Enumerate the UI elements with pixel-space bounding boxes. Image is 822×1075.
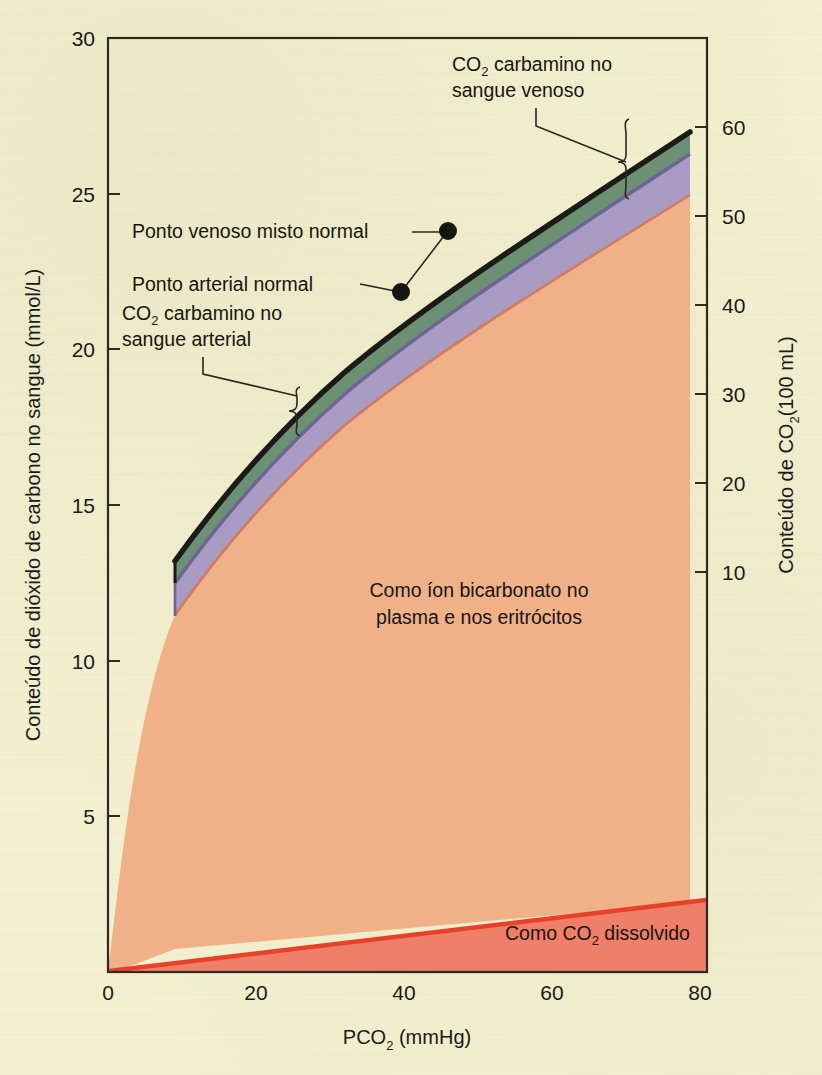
y-right-axis-title-sub: 2 [787,416,802,423]
annotation-carbamino-venoso-leader [536,108,626,162]
y-right-axis-title: Conteúdo de CO2(100 mL) [775,336,802,573]
annotation-dissolvido-prefix: Como CO [505,922,592,944]
y-right-label-10: 10 [722,561,745,584]
point-arterial-normal [392,283,410,301]
x-axis-title-sub: 2 [386,1038,393,1053]
point-venoso-misto-normal [439,222,457,240]
x-label-80: 80 [688,981,711,1004]
annotation-carbamino-arterial: CO2 carbamino no sangue arterial [122,302,300,436]
y-right-label-30: 30 [722,383,745,406]
x-label-0: 0 [102,981,114,1004]
x-axis-title-prefix: PCO [343,1026,386,1048]
y-right-label-60: 60 [722,116,745,139]
annotation-points-connector [401,232,447,292]
annotation-dissolvido-suffix: dissolvido [599,922,690,944]
annotation-carbamino-venoso-prefix: CO [452,53,481,75]
x-label-40: 40 [392,981,415,1004]
annotation-bicarbonato-line2: plasma e nos eritrócitos [376,606,582,628]
annotation-ponto-venoso: Ponto venoso misto normal [132,220,446,242]
annotation-carbamino-arterial-leader [203,357,297,396]
y-left-label-30: 30 [72,27,95,50]
annotation-carbamino-arterial-line2: sangue arterial [122,328,251,350]
annotation-carbamino-arterial-sub: 2 [151,313,158,328]
x-label-60: 60 [540,981,563,1004]
y-right-label-50: 50 [722,205,745,228]
y-left-label-10: 10 [72,650,95,673]
annotation-carbamino-venoso-line1: CO2 carbamino no [452,53,612,79]
y-left-label-15: 15 [72,494,95,517]
x-axis: 0 20 40 60 80 [102,981,712,1004]
annotation-ponto-arterial-label: Ponto arterial normal [132,273,313,295]
annotation-carbamino-venoso: CO2 carbamino no sangue venoso [452,53,629,199]
annotation-bicarbonato-line1: Como íon bicarbonato no [370,579,589,601]
annotation-carbamino-arterial-suffix: carbamino no [158,302,282,324]
x-axis-title: PCO2 (mmHg) [343,1026,471,1053]
figure-svg: 30 25 20 15 10 5 Conteúdo de dióxido de … [0,0,822,1075]
co2-dissociation-figure: 30 25 20 15 10 5 Conteúdo de dióxido de … [0,0,822,1075]
x-label-20: 20 [244,981,267,1004]
annotation-ponto-venoso-label: Ponto venoso misto normal [132,220,368,242]
y-left-axis-title: Conteúdo de dióxido de carbono no sangue… [22,269,44,742]
annotation-carbamino-venoso-suffix: carbamino no [488,53,612,75]
y-right-axis: 60 50 40 30 20 10 [695,116,745,584]
annotation-carbamino-venoso-line2: sangue venoso [452,79,584,101]
y-left-label-25: 25 [72,183,95,206]
annotation-carbamino-venoso-sub: 2 [481,64,488,79]
y-left-label-5: 5 [83,805,95,828]
y-right-axis-title-prefix: Conteúdo de CO [775,424,797,574]
x-axis-title-unit: (mmHg) [393,1026,471,1048]
y-left-axis: 30 25 20 15 10 5 [72,27,120,828]
annotation-carbamino-arterial-prefix: CO [122,302,151,324]
y-right-axis-title-suffix: (100 mL) [775,336,797,416]
annotation-dissolvido-sub: 2 [592,933,599,948]
y-right-label-20: 20 [722,472,745,495]
y-right-label-40: 40 [722,294,745,317]
annotation-carbamino-arterial-line1: CO2 carbamino no [122,302,282,328]
y-left-label-20: 20 [72,338,95,361]
